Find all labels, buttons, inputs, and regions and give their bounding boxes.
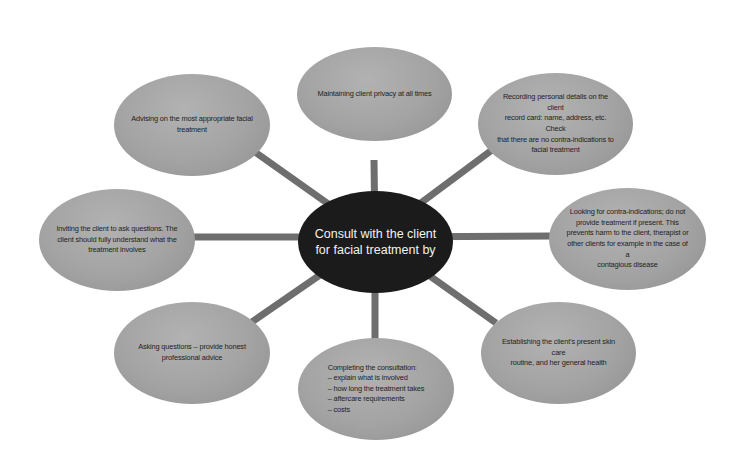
- node-inviting-questions: Inviting the client to ask questions. Th…: [39, 189, 195, 291]
- node-label: Advising on the most appropriate facial …: [131, 114, 253, 135]
- node-maintaining-privacy: Maintaining client privacy at all times: [297, 47, 452, 141]
- node-contra-indications: Looking for contra-indications; do not p…: [549, 188, 706, 290]
- node-skin-care-routine: Establishing the client's present skin c…: [481, 302, 636, 404]
- node-label: Recording personal details on the client…: [494, 92, 617, 156]
- node-label: Inviting the client to ask questions. Th…: [56, 224, 177, 256]
- node-label: Establishing the client's present skin c…: [497, 337, 620, 369]
- central-topic-label: Consult with the client for facial treat…: [315, 226, 437, 258]
- node-recording-details: Recording personal details on the client…: [478, 73, 633, 175]
- mind-map-diagram: Maintaining client privacy at all times …: [0, 0, 735, 467]
- node-asking-questions: Asking questions – provide honest profes…: [114, 302, 270, 404]
- node-label: Maintaining client privacy at all times: [317, 89, 431, 100]
- node-label: Completing the consultation: – explain w…: [328, 363, 425, 416]
- node-label: Looking for contra-indications; do not p…: [565, 207, 690, 271]
- node-advising-treatment: Advising on the most appropriate facial …: [114, 74, 270, 176]
- central-topic: Consult with the client for facial treat…: [298, 191, 453, 293]
- node-completing-consultation: Completing the consultation: – explain w…: [298, 338, 454, 440]
- node-label: Asking questions – provide honest profes…: [138, 342, 246, 363]
